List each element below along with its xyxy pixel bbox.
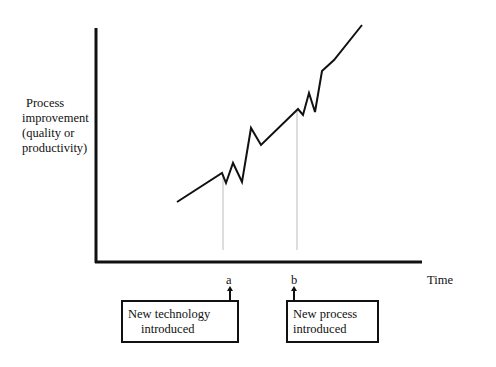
arrow-up-icon-b	[291, 286, 297, 301]
annotation-box-new-process: New process introduced	[286, 300, 379, 343]
annotation-box-new-technology: New technology introduced	[121, 300, 239, 343]
marker-label-a: a	[226, 273, 232, 288]
improvement-curve	[177, 25, 362, 202]
annotation-text-line-2: introduced	[293, 322, 377, 337]
y-label-line-4: productivity)	[22, 141, 89, 156]
y-label-line-2: improvement	[22, 111, 89, 126]
marker-label-b: b	[291, 273, 297, 288]
diagram-canvas	[0, 0, 496, 367]
y-axis-label: Process improvement (quality or producti…	[22, 96, 89, 156]
x-axis-label: Time	[427, 273, 453, 288]
annotation-text-line-1: New technology	[128, 307, 237, 322]
arrow-up-icon-a	[227, 286, 233, 301]
annotation-text-line-1: New process	[293, 307, 377, 322]
y-label-line-3: (quality or	[22, 126, 89, 141]
annotation-text-line-2: introduced	[128, 322, 237, 337]
y-label-line-1: Process	[22, 96, 89, 111]
